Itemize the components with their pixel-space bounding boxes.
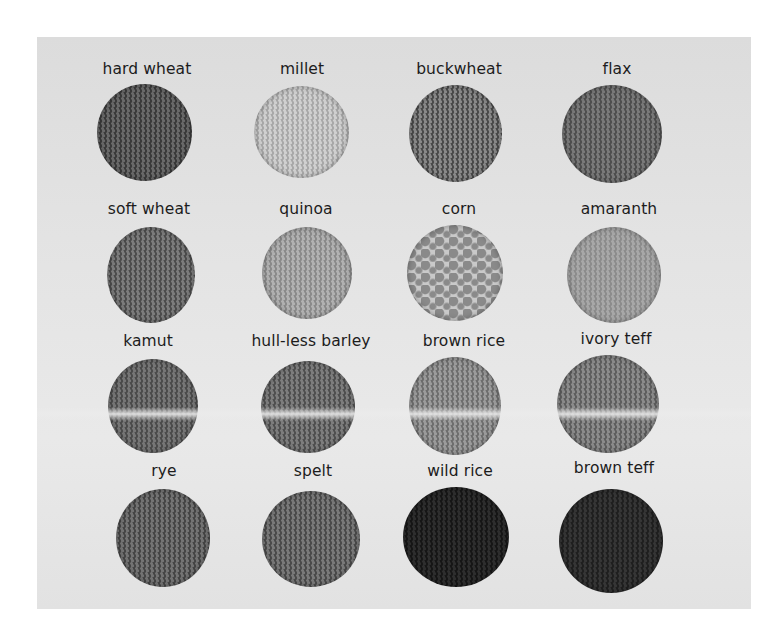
grain-sample-soft-wheat: soft wheat: [64, 200, 234, 218]
grain-sample-amaranth: amaranth: [534, 200, 704, 218]
grain-label: brown teff: [529, 459, 699, 477]
grain-label: amaranth: [534, 200, 704, 218]
grain-sample-corn: corn: [374, 200, 544, 218]
grain-pile: [403, 487, 509, 587]
grain-pile: [262, 491, 360, 587]
grain-label: ivory teff: [531, 330, 701, 348]
grain-sample-millet: millet: [217, 60, 387, 78]
grain-label: wild rice: [375, 462, 545, 480]
grain-label: soft wheat: [64, 200, 234, 218]
grain-label: hard wheat: [62, 60, 232, 78]
grain-pile: [557, 355, 659, 453]
grain-label: hull-less barley: [226, 332, 396, 350]
grain-photo-panel: hard wheat millet buckwheat flax soft wh…: [37, 37, 751, 609]
grain-sample-quinoa: quinoa: [221, 200, 391, 218]
grain-label: kamut: [63, 332, 233, 350]
grain-sample-hard-wheat: hard wheat: [62, 60, 232, 78]
grain-label: brown rice: [379, 332, 549, 350]
grain-label: rye: [79, 462, 249, 480]
grain-sample-wild-rice: wild rice: [375, 462, 545, 480]
grain-label: buckwheat: [374, 60, 544, 78]
grain-pile: [559, 489, 663, 593]
grain-sample-rye: rye: [79, 462, 249, 480]
grain-pile: [567, 227, 661, 323]
grain-pile: [261, 361, 355, 453]
grain-pile: [409, 357, 501, 455]
grain-label: corn: [374, 200, 544, 218]
grain-sample-brown-teff: brown teff: [529, 459, 699, 477]
grain-sample-hull-less-barley: hull-less barley: [226, 332, 396, 350]
grain-label: spelt: [228, 462, 398, 480]
grain-sample-flax: flax: [532, 60, 702, 78]
grain-pile: [254, 86, 349, 178]
grain-label: quinoa: [221, 200, 391, 218]
grain-pile: [409, 85, 502, 182]
grain-pile: [108, 359, 198, 453]
grain-pile: [97, 84, 192, 181]
grain-sample-brown-rice: brown rice: [379, 332, 549, 350]
grain-pile: [562, 85, 662, 183]
grain-sample-buckwheat: buckwheat: [374, 60, 544, 78]
grain-sample-kamut: kamut: [63, 332, 233, 350]
grain-pile: [107, 227, 195, 323]
grain-sample-spelt: spelt: [228, 462, 398, 480]
grain-pile: [407, 225, 503, 321]
grain-pile: [116, 489, 210, 587]
grain-label: flax: [532, 60, 702, 78]
grain-sample-ivory-teff: ivory teff: [531, 330, 701, 348]
grain-pile: [262, 227, 352, 319]
grain-label: millet: [217, 60, 387, 78]
